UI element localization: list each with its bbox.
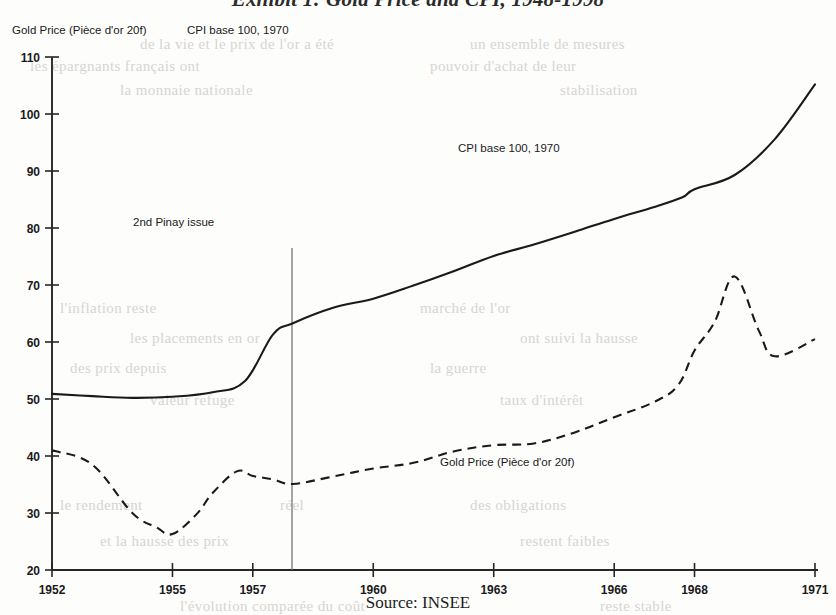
- series-line-gold-price: [52, 276, 815, 534]
- annotation-label-pinay: 2nd Pinay issue: [133, 216, 214, 228]
- y-axis-tick-label: 50: [27, 393, 41, 407]
- y-axis-tick-label: 30: [27, 507, 41, 521]
- y-axis-tick-group: 2030405060708090100110: [20, 51, 59, 578]
- x-axis-tick-group: 19521955195719601963196619681971: [39, 563, 829, 597]
- chart-plot-area: 2030405060708090100110 19521955195719601…: [0, 0, 836, 615]
- series-line-cpi: [52, 84, 815, 398]
- y-axis-tick-label: 60: [27, 336, 41, 350]
- source-caption: Source: INSEE: [0, 593, 836, 613]
- y-axis-tick-label: 80: [27, 222, 41, 236]
- y-axis-tick-label: 110: [21, 51, 41, 65]
- series-label-gold-price: Gold Price (Pièce d'or 20f): [440, 456, 575, 468]
- y-axis-tick-label: 40: [27, 450, 41, 464]
- series-label-cpi: CPI base 100, 1970: [458, 142, 560, 154]
- y-axis-tick-label: 100: [20, 108, 40, 122]
- chart-svg: 2030405060708090100110 19521955195719601…: [0, 0, 836, 615]
- y-axis-tick-label: 20: [27, 564, 41, 578]
- y-axis-tick-label: 90: [27, 165, 41, 179]
- y-axis-tick-label: 70: [27, 279, 41, 293]
